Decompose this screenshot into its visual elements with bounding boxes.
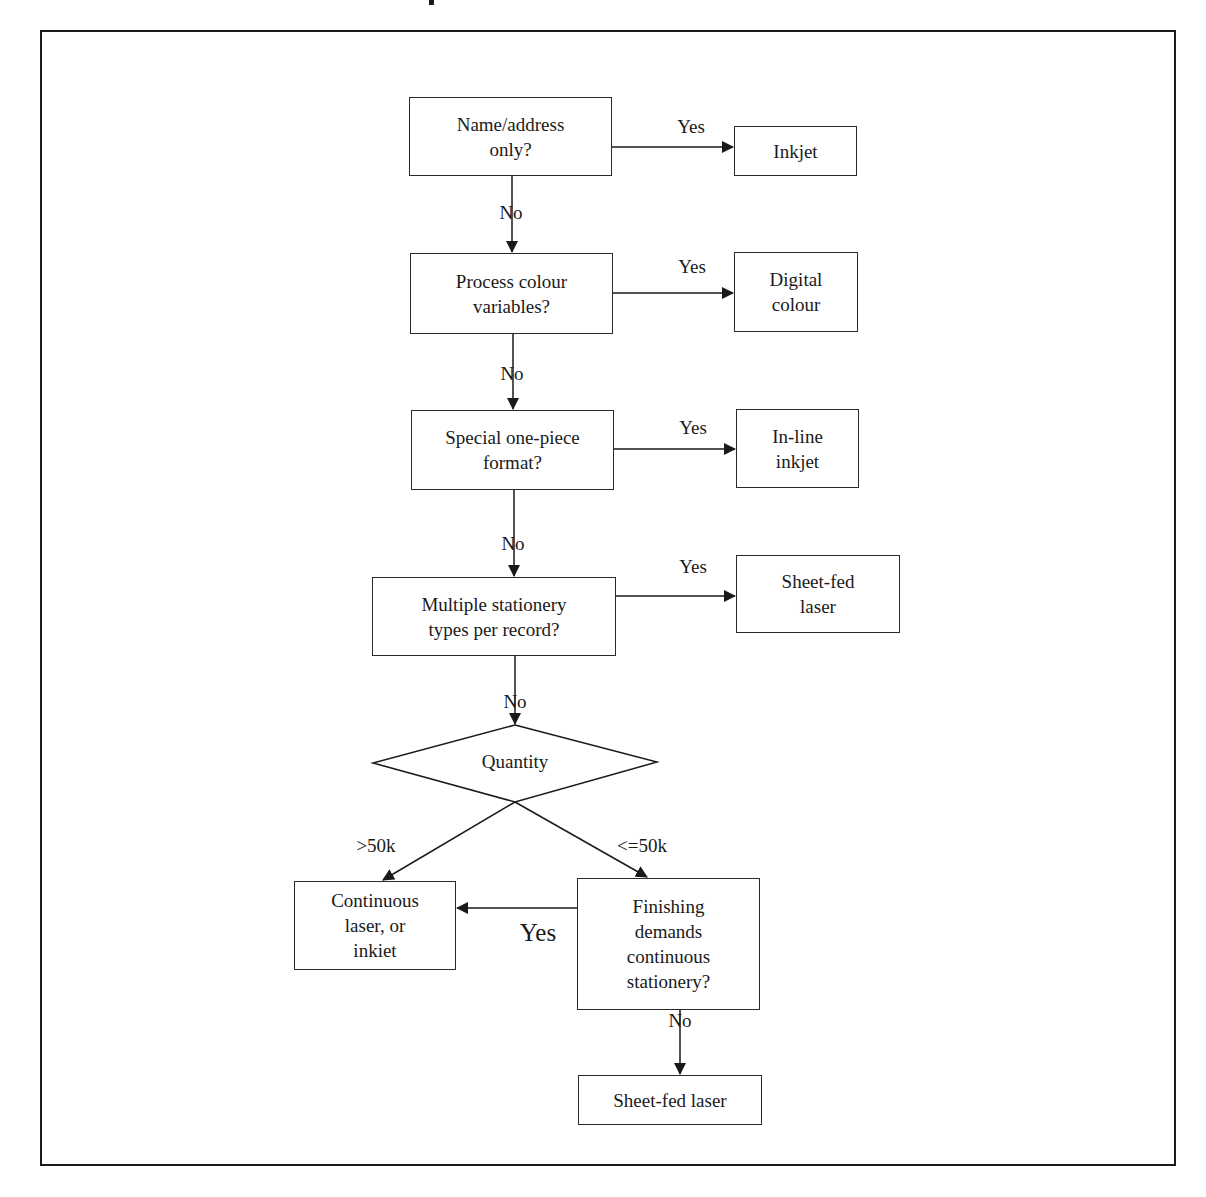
decision-finishing: Finishing demands continuous stationery? (577, 878, 760, 1010)
decision-multiple-stationery: Multiple stationery types per record? (372, 577, 616, 656)
label-no-4: No (503, 691, 526, 713)
arrow-gt50k (383, 802, 515, 880)
label-finishing-no: No (668, 1010, 691, 1032)
decision-one-piece-format: Special one-piece format? (411, 410, 614, 490)
label-no-3: No (501, 533, 524, 555)
label-no-1: No (499, 202, 522, 224)
label-gt50k: >50k (356, 835, 395, 857)
decision-process-colour: Process colour variables? (410, 253, 613, 334)
outcome-inkjet: Inkjet (734, 126, 857, 176)
decision-name-address: Name/address only? (409, 97, 612, 176)
outcome-sheetfed-laser-1: Sheet-fed laser (736, 555, 900, 633)
label-yes-2: Yes (678, 256, 706, 278)
outcome-sheetfed-laser-2: Sheet-fed laser (578, 1075, 762, 1125)
label-finishing-yes: Yes (520, 922, 556, 944)
outcome-digital-colour: Digital colour (734, 252, 858, 332)
label-yes-4: Yes (679, 556, 707, 578)
outcome-inline-inkjet: In-line inkjet (736, 409, 859, 488)
flowchart-canvas: Name/address only? Process colour variab… (0, 0, 1206, 1197)
label-le50k: <=50k (617, 835, 667, 857)
label-yes-3: Yes (679, 417, 707, 439)
label-no-2: No (500, 363, 523, 385)
decision-quantity: Quantity (482, 751, 549, 773)
label-yes-1: Yes (677, 116, 705, 138)
outcome-continuous-laser: Continuous laser, or inkiet (294, 881, 456, 970)
